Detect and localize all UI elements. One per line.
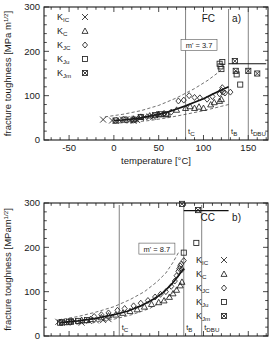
- x-tick-label: 0: [111, 142, 116, 153]
- reference-lines: tCtBtDBU: [186, 9, 267, 140]
- data-point: [211, 99, 217, 104]
- x-tick-label: 100: [196, 142, 212, 153]
- svg-text:KIC: KIC: [196, 255, 209, 266]
- legend-label-Jm: KJm: [196, 311, 210, 322]
- chart-panel-cc: 0100200300fracture toughness [MPam1/2]tC…: [0, 173, 277, 346]
- x-tick-label: -50: [62, 142, 76, 153]
- panel-index-label: a): [232, 13, 241, 24]
- data-point: [232, 59, 237, 64]
- svg-text:KJC: KJC: [57, 40, 71, 51]
- legend-symbol-Jm: [221, 313, 226, 318]
- data-point: [187, 93, 192, 99]
- y-tick-label: 100: [24, 286, 40, 297]
- legend-symbol-Ju: [82, 56, 87, 61]
- data-point: [170, 290, 176, 295]
- svg-text:tB: tB: [231, 127, 237, 137]
- curve-upper-bound: [105, 68, 223, 117]
- panel-title-group: FCa): [202, 13, 241, 24]
- svg-text:KJu: KJu: [57, 54, 70, 65]
- y-tick-label: 0: [35, 330, 40, 341]
- panel-index-label: b): [232, 212, 241, 223]
- legend-group: KICKCKJCKJuKJm: [57, 12, 88, 79]
- y-tick-label: 300: [24, 1, 40, 12]
- label-t_B: tB: [231, 127, 237, 137]
- svg-text:KJu: KJu: [196, 297, 209, 308]
- chart-svg-cc: 0100200300fracture toughness [MPam1/2]tC…: [0, 173, 277, 346]
- legend-label-IC: KIC: [196, 255, 209, 266]
- y-tick-label: 100: [24, 90, 40, 101]
- label-t_DBU: tDBU: [251, 127, 266, 137]
- svg-text:tB: tB: [186, 323, 192, 333]
- reference-lines: tCtBtDBU: [119, 205, 228, 336]
- legend-label-IC: KIC: [57, 12, 70, 23]
- data-point: [177, 282, 183, 287]
- svg-text:KJm: KJm: [57, 68, 71, 79]
- data-point: [176, 98, 181, 104]
- legend-symbol-C: [221, 271, 227, 276]
- y-axis-title: fracture toughness [MPam1/2]: [2, 208, 13, 331]
- legend-label-C: KC: [57, 26, 68, 37]
- series-K_Jm: [153, 59, 260, 118]
- x-tick-label: 50: [153, 142, 164, 153]
- data-point: [166, 294, 172, 299]
- x-tick-label: 150: [240, 142, 256, 153]
- data-point: [255, 71, 260, 76]
- data-point: [238, 82, 243, 87]
- panel-title-group: CCb): [201, 212, 241, 223]
- panel-material-label: FC: [202, 13, 215, 24]
- svg-text:tC: tC: [188, 127, 195, 137]
- svg-text:tC: tC: [122, 323, 129, 333]
- svg-text:KJm: KJm: [196, 311, 210, 322]
- legend-label-JC: KJC: [196, 283, 210, 294]
- y-tick-label: 300: [24, 197, 40, 208]
- y-tick-label: 200: [24, 242, 40, 253]
- legend-label-C: KC: [196, 269, 207, 280]
- label-t_C: tC: [122, 323, 129, 333]
- legend-label-Jm: KJm: [57, 68, 71, 79]
- label-t_C: tC: [188, 127, 195, 137]
- svg-text:KJC: KJC: [196, 283, 210, 294]
- figure-container: -500501001500100200300temperature [°C]fr…: [0, 0, 277, 346]
- legend-symbol-JC: [221, 285, 226, 291]
- data-point: [196, 104, 202, 109]
- legend-symbol-C: [82, 28, 88, 33]
- data-point: [192, 94, 197, 100]
- panel-material-label: CC: [201, 212, 215, 223]
- y-axis-title: fracture toughness [MPa m1/2]: [2, 11, 13, 136]
- annotation-m: m' = 8.7: [139, 243, 175, 254]
- x-axis-title: temperature [°C]: [121, 155, 191, 166]
- legend-symbol-JC: [82, 42, 87, 48]
- annotation-text: m' = 8.7: [144, 245, 171, 254]
- svg-text:KC: KC: [196, 269, 207, 280]
- series-K_Ju: [58, 240, 199, 325]
- legend-label-Ju: KJu: [57, 54, 70, 65]
- svg-text:KIC: KIC: [57, 12, 70, 23]
- annotation-text: m' = 3.7: [186, 41, 213, 50]
- legend-symbol-IC: [82, 14, 88, 20]
- chart-svg-fc: -500501001500100200300temperature [°C]fr…: [0, 0, 277, 173]
- legend-symbol-Jm: [82, 70, 87, 75]
- curve-upper-bound: [58, 253, 178, 320]
- annotation-m: m' = 3.7: [181, 40, 217, 51]
- label-t_DBU: tDBU: [204, 323, 219, 333]
- data-point: [100, 117, 106, 123]
- chart-panel-fc: -500501001500100200300temperature [°C]fr…: [0, 0, 277, 173]
- y-tick-label: 200: [24, 46, 40, 57]
- legend-symbol-IC: [221, 257, 227, 263]
- data-point: [177, 266, 182, 272]
- legend-label-Ju: KJu: [196, 297, 209, 308]
- svg-text:tDBU: tDBU: [204, 323, 219, 333]
- legend-symbol-Ju: [221, 299, 226, 304]
- legend-group: KICKCKJCKJuKJm: [196, 255, 227, 322]
- data-point: [179, 201, 184, 206]
- data-point: [194, 240, 199, 245]
- svg-text:KC: KC: [57, 26, 68, 37]
- legend-label-JC: KJC: [57, 40, 71, 51]
- curve-master-curve: [60, 269, 184, 323]
- y-tick-label: 0: [35, 134, 40, 145]
- data-point: [233, 68, 238, 73]
- svg-text:tDBU: tDBU: [251, 127, 266, 137]
- data-points-group: [55, 201, 200, 325]
- label-t_B: tB: [186, 323, 192, 333]
